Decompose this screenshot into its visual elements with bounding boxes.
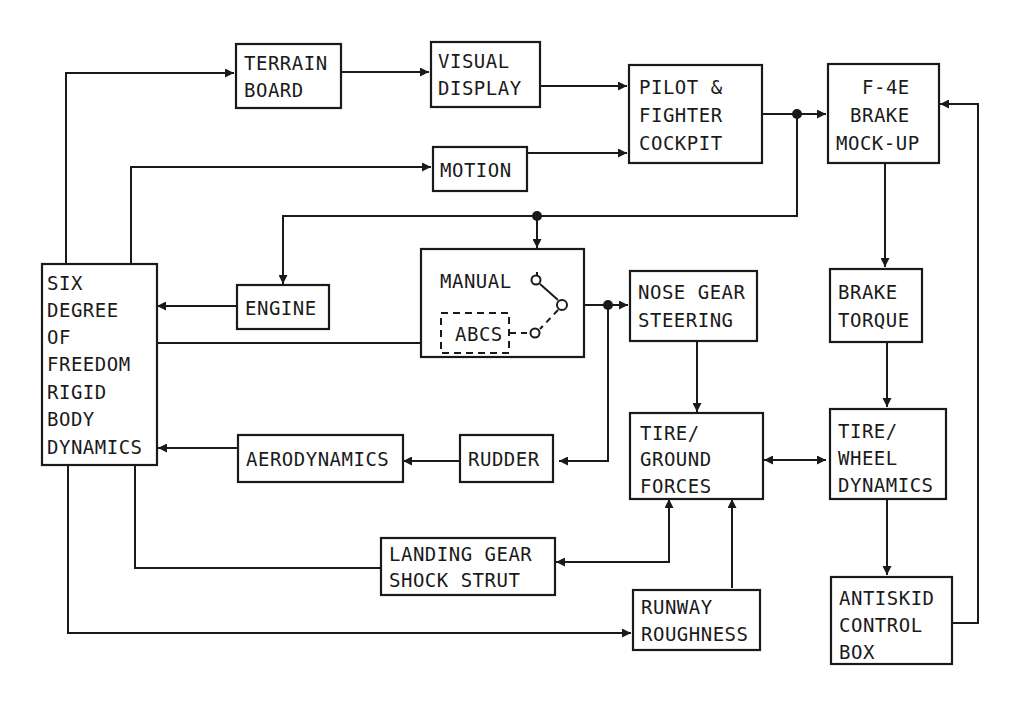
block-label: FIGHTER	[639, 104, 723, 126]
arrow-antiskid-to-brake-mockup	[940, 104, 978, 623]
manual-terminal	[532, 276, 541, 285]
block-label: DYNAMICS	[47, 436, 143, 458]
block-landing-gear-shock-strut: LANDING GEAR SHOCK STRUT	[381, 538, 555, 595]
block-label: DYNAMICS	[838, 474, 934, 496]
block-label: VISUAL	[438, 50, 510, 72]
block-label: PILOT &	[639, 76, 723, 98]
block-pilot-fighter-cockpit: PILOT & FIGHTER COCKPIT	[629, 65, 762, 163]
block-label: OF	[47, 326, 71, 348]
block-label: SHOCK STRUT	[389, 569, 520, 591]
block-label: ROUGHNESS	[641, 623, 748, 645]
block-label: SIX	[47, 272, 83, 294]
junction-dot-manual-feed	[532, 211, 542, 221]
block-label: TORQUE	[838, 309, 910, 331]
block-label: CONTROL	[839, 614, 923, 636]
block-label: FORCES	[640, 475, 712, 497]
block-label: RIGID	[47, 381, 107, 403]
block-label: COCKPIT	[639, 132, 723, 154]
block-label: ENGINE	[245, 297, 317, 319]
common-terminal	[557, 300, 567, 310]
block-label: RUDDER	[468, 448, 540, 470]
abcs-label: ABCS	[455, 323, 503, 345]
block-label: DISPLAY	[438, 77, 522, 99]
block-label: LANDING GEAR	[389, 543, 532, 565]
block-label: BRAKE	[838, 281, 898, 303]
block-six-dof-rigid-body: SIX DEGREE OF FREEDOM RIGID BODY DYNAMIC…	[42, 264, 157, 465]
block-manual-abcs-switch: MANUAL ABCS	[421, 249, 584, 357]
manual-label: MANUAL	[440, 270, 512, 292]
block-label: AERODYNAMICS	[246, 448, 389, 470]
block-label: WHEEL	[838, 447, 898, 469]
block-label: FREEDOM	[47, 353, 131, 375]
block-engine: ENGINE	[237, 285, 329, 329]
block-f4e-brake-mockup: F-4E BRAKE MOCK-UP	[828, 64, 939, 163]
block-terrain-board: TERRAIN BOARD	[236, 44, 341, 108]
block-label: BOARD	[244, 79, 304, 101]
block-label: GROUND	[640, 448, 712, 470]
block-label: TIRE/	[640, 422, 700, 444]
junction-dot-pilot-output	[792, 109, 802, 119]
block-tire-ground-forces: TIRE/ GROUND FORCES	[630, 413, 763, 499]
block-visual-display: VISUAL DISPLAY	[431, 42, 540, 107]
block-label: ANTISKID	[839, 587, 935, 609]
block-nose-gear-steering: NOSE GEAR STEERING	[630, 271, 757, 341]
block-label: BOX	[839, 641, 875, 663]
block-label: DEGREE	[47, 299, 119, 321]
abcs-terminal	[531, 329, 540, 338]
block-diagram: TERRAIN BOARD VISUAL DISPLAY PILOT & FIG…	[0, 0, 1010, 702]
block-label: MOTION	[440, 159, 512, 181]
block-label: TIRE/	[838, 420, 898, 442]
block-label: BRAKE	[850, 104, 910, 126]
block-label: BODY	[47, 408, 95, 430]
block-brake-torque: BRAKE TORQUE	[830, 269, 922, 342]
block-rudder: RUDDER	[460, 435, 553, 482]
block-label: NOSE GEAR	[638, 281, 746, 303]
block-label: STEERING	[638, 309, 734, 331]
junction-dot-switch-output	[603, 300, 613, 310]
block-tire-wheel-dynamics: TIRE/ WHEEL DYNAMICS	[830, 409, 946, 499]
block-label: F-4E	[862, 76, 910, 98]
block-label: RUNWAY	[641, 596, 713, 618]
block-runway-roughness: RUNWAY ROUGHNESS	[633, 590, 760, 650]
block-label: MOCK-UP	[836, 132, 920, 154]
arrow-tire-ground-landing-gear	[556, 499, 669, 562]
block-motion: MOTION	[433, 147, 527, 191]
block-antiskid-control-box: ANTISKID CONTROL BOX	[831, 577, 952, 664]
block-aerodynamics: AERODYNAMICS	[238, 435, 403, 482]
block-label: TERRAIN	[244, 52, 328, 74]
